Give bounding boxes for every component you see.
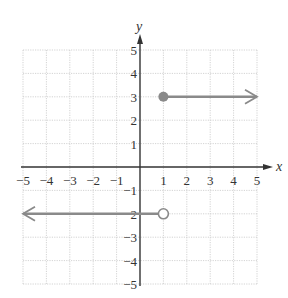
lower-ray bbox=[23, 207, 168, 221]
y-tick-label: −3 bbox=[123, 230, 137, 245]
x-tick-label: −3 bbox=[63, 173, 77, 188]
x-axis-label: x bbox=[275, 159, 283, 174]
y-tick-label: −4 bbox=[123, 254, 137, 269]
open-point-icon bbox=[158, 209, 168, 219]
y-tick-label: −1 bbox=[123, 183, 137, 198]
x-tick-label: 3 bbox=[207, 173, 214, 188]
y-tick-label: 2 bbox=[131, 113, 138, 128]
y-tick-label: 4 bbox=[131, 66, 138, 81]
closed-point-icon bbox=[158, 92, 168, 102]
x-tick-label: −5 bbox=[16, 173, 30, 188]
y-tick-label: 5 bbox=[131, 43, 138, 58]
x-tick-label: −4 bbox=[39, 173, 53, 188]
y-tick-label: 1 bbox=[131, 137, 138, 152]
x-tick-label: 1 bbox=[160, 173, 167, 188]
y-axis-label: y bbox=[134, 19, 143, 34]
piecewise-graph: −5−4−3−2−11234554321−1−2−3−4−5 x y bbox=[0, 0, 288, 298]
x-tick-label: 5 bbox=[254, 173, 261, 188]
y-tick-label: −5 bbox=[123, 277, 137, 292]
upper-ray bbox=[158, 90, 257, 104]
x-tick-label: 2 bbox=[184, 173, 191, 188]
x-axis-arrow-icon bbox=[263, 164, 273, 170]
x-tick-label: 4 bbox=[230, 173, 237, 188]
x-tick-label: −1 bbox=[110, 173, 124, 188]
axes bbox=[21, 34, 273, 286]
x-tick-label: −2 bbox=[86, 173, 100, 188]
y-axis-arrow-icon bbox=[137, 34, 143, 44]
y-tick-label: 3 bbox=[131, 90, 138, 105]
